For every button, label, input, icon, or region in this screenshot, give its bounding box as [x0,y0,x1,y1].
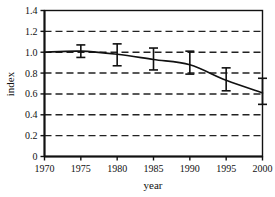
y-tick-label-0.2: 0.2 [25,130,38,141]
y-axis-label: index [4,71,16,96]
x-tick-label-2000: 2000 [253,163,273,174]
x-tick-label-1985: 1985 [144,163,164,174]
y-tick-label-1.2: 1.2 [25,26,38,37]
y-tick-label-1.4: 1.4 [25,5,38,16]
y-tick-label-1: 1.0 [25,47,38,58]
y-tick-label-0: 0 [33,151,38,162]
line-chart: 1970197519801985199019952000 00.20.40.60… [0,0,275,197]
y-tick-label-0.4: 0.4 [25,109,38,120]
x-tick-label-1980: 1980 [107,163,127,174]
y-tick-label-0.6: 0.6 [25,88,38,99]
x-tick-label-1970: 1970 [35,163,55,174]
chart-figure: 1970197519801985199019952000 00.20.40.60… [0,0,275,197]
x-tick-label-1975: 1975 [71,163,91,174]
y-tick-label-0.8: 0.8 [25,68,38,79]
x-axis-label: year [144,179,163,191]
x-tick-label-1990: 1990 [180,163,200,174]
x-tick-label-1995: 1995 [216,163,236,174]
